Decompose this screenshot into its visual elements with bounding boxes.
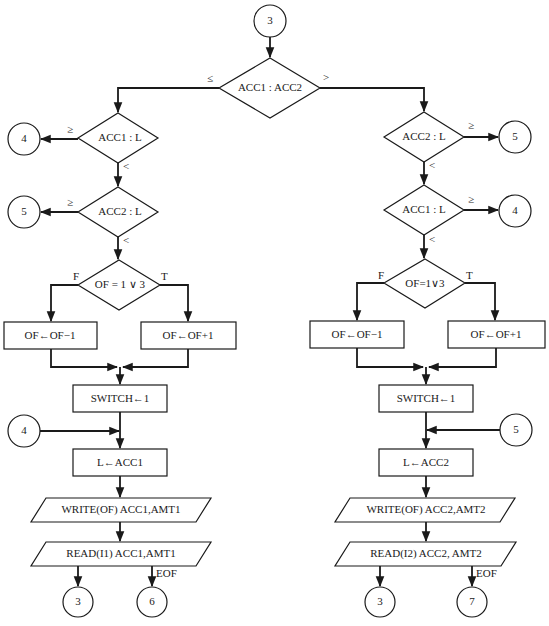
right-io-read: READ(I2) ACC2, AMT2 [335, 542, 516, 566]
right-box-increment: OF←OF+1 [448, 321, 545, 348]
svg-text:3: 3 [377, 595, 383, 607]
label-lt: < [123, 160, 129, 172]
right-decision-acc1-l: ACC1 : L [384, 185, 464, 235]
svg-text:OF←OF−1: OF←OF−1 [332, 328, 383, 340]
svg-text:ACC1 : L: ACC1 : L [98, 131, 142, 143]
left-decision-acc1-l: ACC1 : L [78, 113, 158, 163]
right-exit-connector-3: 3 [365, 587, 395, 617]
label-f: F [378, 269, 384, 281]
svg-text:5: 5 [21, 205, 27, 217]
left-box-assign: L←ACC1 [73, 449, 167, 476]
svg-text:6: 6 [149, 595, 155, 607]
left-box-decrement: OF←OF−1 [4, 322, 97, 349]
label-ge: ≥ [468, 193, 474, 205]
label-lt: < [429, 159, 435, 171]
svg-text:ACC1 : L: ACC1 : L [402, 203, 446, 215]
svg-text:READ(I2) ACC2, AMT2: READ(I2) ACC2, AMT2 [370, 547, 482, 560]
svg-text:OF = 1 ∨ 3: OF = 1 ∨ 3 [95, 278, 146, 290]
right-connector-4: 4 [499, 195, 531, 227]
svg-text:ACC1 : ACC2: ACC1 : ACC2 [238, 81, 302, 93]
svg-text:4: 4 [21, 132, 27, 144]
left-join-connector-4: 4 [8, 415, 40, 447]
left-decision-of: OF = 1 ∨ 3 [78, 260, 160, 310]
right-join-connector-5: 5 [500, 414, 532, 446]
label-ge: ≥ [468, 119, 474, 131]
svg-text:SWITCH←1: SWITCH←1 [397, 392, 456, 404]
svg-text:3: 3 [267, 14, 273, 26]
svg-text:7: 7 [469, 595, 475, 607]
right-eof-connector-7: 7 [457, 587, 487, 617]
svg-text:OF=1∨3: OF=1∨3 [405, 277, 445, 289]
svg-text:L←ACC2: L←ACC2 [403, 456, 449, 468]
right-connector-5: 5 [499, 121, 531, 153]
left-decision-acc2-l: ACC2 : L [78, 187, 158, 237]
svg-text:3: 3 [75, 595, 81, 607]
right-box-decrement: OF←OF−1 [310, 321, 404, 348]
left-eof-connector-6: 6 [137, 587, 167, 617]
label-ge: ≥ [67, 123, 73, 135]
decision-acc1-acc2: ACC1 : ACC2 [219, 58, 320, 118]
label-ge: ≥ [67, 196, 73, 208]
label-eof: EOF [156, 567, 177, 579]
svg-text:WRITE(OF) ACC2,AMT2: WRITE(OF) ACC2,AMT2 [366, 503, 485, 516]
label-gt: > [323, 71, 329, 83]
entry-connector: 3 [254, 5, 286, 37]
svg-text:SWITCH←1: SWITCH←1 [91, 392, 150, 404]
left-exit-connector-3: 3 [63, 587, 93, 617]
svg-text:OF←OF−1: OF←OF−1 [25, 329, 76, 341]
label-le: ≤ [207, 72, 213, 84]
left-box-increment: OF←OF+1 [141, 322, 236, 349]
label-eof: EOF [476, 567, 497, 579]
label-t: T [466, 269, 473, 281]
left-io-write: WRITE(OF) ACC1,AMT1 [31, 498, 211, 522]
svg-text:READ(I1) ACC1,AMT1: READ(I1) ACC1,AMT1 [66, 547, 175, 560]
svg-text:OF←OF+1: OF←OF+1 [163, 329, 214, 341]
svg-text:ACC2 : L: ACC2 : L [402, 130, 446, 142]
svg-text:4: 4 [512, 204, 518, 216]
left-connector-4: 4 [8, 123, 40, 155]
right-box-switch: SWITCH←1 [379, 385, 473, 412]
svg-text:5: 5 [512, 130, 518, 142]
left-io-read: READ(I1) ACC1,AMT1 [31, 542, 211, 566]
label-t: T [161, 270, 168, 282]
svg-text:L←ACC1: L←ACC1 [97, 456, 143, 468]
left-box-switch: SWITCH←1 [73, 385, 167, 412]
svg-text:5: 5 [513, 423, 519, 435]
svg-text:WRITE(OF) ACC1,AMT1: WRITE(OF) ACC1,AMT1 [61, 503, 180, 516]
svg-text:4: 4 [21, 424, 27, 436]
label-f: F [73, 270, 79, 282]
label-lt: < [123, 234, 129, 246]
label-lt: < [429, 233, 435, 245]
right-box-assign: L←ACC2 [379, 449, 473, 476]
right-io-write: WRITE(OF) ACC2,AMT2 [335, 498, 515, 522]
left-connector-5: 5 [8, 196, 40, 228]
right-decision-of: OF=1∨3 [384, 259, 465, 308]
right-decision-acc2-l: ACC2 : L [384, 112, 464, 162]
flowchart: 3 ACC1 : ACC2 ≤ > ACC1 : L ≥ 4 < ACC2 : … [0, 0, 549, 626]
svg-text:OF←OF+1: OF←OF+1 [471, 328, 522, 340]
svg-text:ACC2 : L: ACC2 : L [98, 205, 142, 217]
